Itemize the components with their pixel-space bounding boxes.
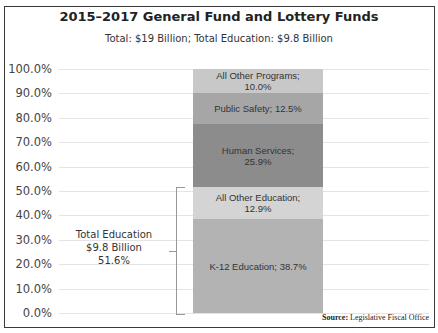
education-bracket-tick	[169, 251, 176, 252]
y-tick-label: 30.0%	[8, 233, 52, 247]
y-tick-label: 20.0%	[8, 257, 52, 271]
y-tick-label: 80.0%	[8, 111, 52, 125]
y-tick-label: 10.0%	[8, 282, 52, 296]
y-tick-label: 70.0%	[8, 135, 52, 149]
y-tick-label: 60.0%	[8, 160, 52, 174]
segment-public-safety: Public Safety; 12.5%	[193, 93, 323, 124]
segment-label: K-12 Education; 38.7%	[209, 261, 306, 272]
chart-title: 2015–2017 General Fund and Lottery Funds	[0, 9, 438, 24]
annotation-line: Total Education	[64, 228, 164, 241]
source-note: Source: Legislative Fiscal Office	[322, 313, 429, 322]
stacked-bar: All Other Programs;10.0% Public Safety; …	[193, 69, 323, 313]
y-tick-label: 90.0%	[8, 86, 52, 100]
y-tick-label: 100.0%	[8, 62, 52, 76]
segment-human-services: Human Services;25.9%	[193, 124, 323, 187]
segment-value: 12.9%	[245, 203, 272, 214]
segment-all-other-programs: All Other Programs;10.0%	[193, 69, 323, 93]
y-tick-label: 50.0%	[8, 184, 52, 198]
segment-value: 10.0%	[245, 81, 272, 92]
chart-subtitle: Total: $19 Billion; Total Education: $9.…	[0, 33, 438, 44]
segment-all-other-education: All Other Education;12.9%	[193, 187, 323, 219]
education-bracket	[176, 187, 185, 315]
annotation-line: 51.6%	[64, 254, 164, 267]
segment-k12-education: K-12 Education; 38.7%	[193, 219, 323, 313]
source-label: Source:	[322, 313, 348, 322]
y-tick-label: 0.0%	[8, 306, 52, 320]
segment-label: Human Services;	[222, 145, 294, 156]
segment-label: All Other Education;	[216, 192, 301, 203]
y-tick-label: 40.0%	[8, 208, 52, 222]
source-text: Legislative Fiscal Office	[348, 313, 429, 322]
segment-value: 25.9%	[245, 156, 272, 167]
annotation-line: $9.8 Billion	[64, 241, 164, 254]
total-education-annotation: Total Education $9.8 Billion 51.6%	[64, 228, 164, 267]
segment-label: Public Safety; 12.5%	[214, 103, 302, 114]
segment-label: All Other Programs;	[216, 70, 299, 81]
